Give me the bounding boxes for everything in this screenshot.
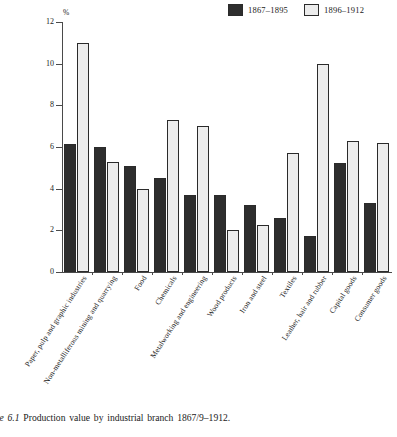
x-axis-category-label-text: Food — [132, 274, 148, 292]
x-axis-category-label-text: Metalworking and engineering — [148, 274, 208, 360]
bar-group — [184, 22, 209, 272]
bar — [197, 126, 209, 272]
y-axis-tick-label: 12 — [30, 17, 54, 26]
y-axis-tick-label-wrap: 2 — [30, 230, 54, 231]
y-axis-tick-label-wrap: 10 — [30, 64, 54, 65]
bar-group — [274, 22, 299, 272]
bar-group — [304, 22, 329, 272]
y-axis-tick-label: 2 — [30, 225, 54, 234]
bar — [64, 144, 76, 272]
bar — [347, 141, 359, 272]
y-axis-tick-label: 10 — [30, 59, 54, 68]
y-axis-tick-label-wrap: 8 — [30, 105, 54, 106]
x-axis-category-label-text: Chemicals — [153, 274, 179, 307]
bar — [377, 143, 389, 272]
bar-group — [154, 22, 179, 272]
y-axis-unit-label: % — [63, 8, 69, 17]
y-axis-tick-mark — [56, 272, 63, 273]
bar-group — [364, 22, 389, 272]
y-axis-tick-label: 6 — [30, 142, 54, 151]
x-axis-category-labels: Paper, pulp and graphic industriesNon-me… — [62, 274, 397, 394]
bar-group — [64, 22, 89, 272]
y-axis-tick-label: 8 — [30, 100, 54, 109]
bar — [317, 64, 329, 272]
y-axis-tick-label-wrap: 6 — [30, 147, 54, 148]
figure-container: 1867–1895 1896–1912 % 024681012 Paper, p… — [0, 0, 397, 437]
x-axis-category-label-text: Wood products — [205, 274, 238, 319]
y-axis-tick-label-wrap: 4 — [30, 189, 54, 190]
y-axis-tick-label-wrap: 12 — [30, 22, 54, 23]
bar — [287, 153, 299, 272]
x-axis-category-label-text: Textiles — [278, 274, 299, 300]
caption-text: Production value by industrial branch 18… — [23, 412, 230, 423]
x-axis-category-label-text: Consumer goods — [352, 274, 388, 323]
y-axis-tick-label: 4 — [30, 184, 54, 193]
x-axis-category-label-text: Capital goods — [327, 274, 358, 315]
figure-caption: Figure 6.1 Production value by industria… — [0, 412, 397, 423]
y-axis-tick-label: 0 — [30, 267, 54, 276]
bar — [77, 43, 89, 272]
y-axis-tick-label-wrap: 0 — [30, 272, 54, 273]
x-axis-category-label-text: Iron and steel — [238, 274, 269, 315]
figure-number: Figure 6.1 — [0, 412, 20, 423]
